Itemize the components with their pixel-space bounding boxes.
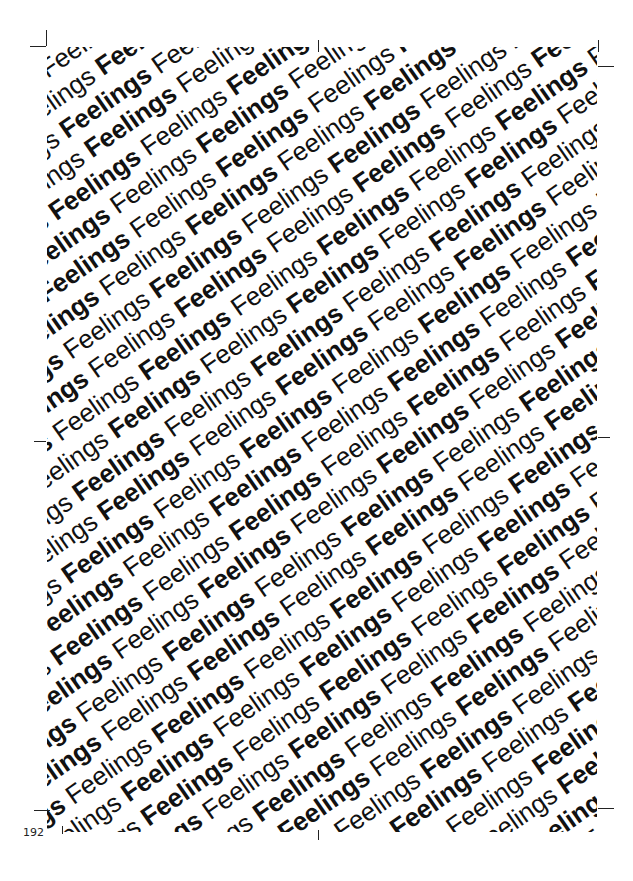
page-number: 192 bbox=[23, 826, 44, 839]
crop-mark-bottom-right-h bbox=[598, 808, 614, 809]
crop-mark-mid-left bbox=[34, 441, 46, 442]
crop-mark-top-left-h bbox=[30, 46, 46, 47]
crop-mark-bottom-left-v bbox=[62, 826, 63, 834]
diagonal-text-pattern: FeelingsFeelingsFeelingsFeelingsFeelings… bbox=[47, 47, 597, 832]
crop-mark-top-left-v bbox=[46, 30, 47, 46]
crop-mark-top-right-v bbox=[598, 40, 599, 52]
crop-mark-bottom-left-h bbox=[34, 810, 50, 811]
crop-mark-top-right-h bbox=[598, 66, 614, 67]
feelings-pattern-artwork: FeelingsFeelingsFeelingsFeelingsFeelings… bbox=[47, 47, 597, 832]
crop-mark-mid-right bbox=[598, 437, 610, 438]
page: FeelingsFeelingsFeelingsFeelingsFeelings… bbox=[0, 0, 633, 881]
crop-mark-bottom-center bbox=[318, 830, 319, 840]
crop-mark-top-center bbox=[318, 40, 319, 52]
